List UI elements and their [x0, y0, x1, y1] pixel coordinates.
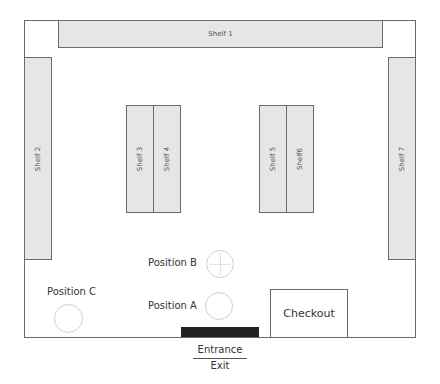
checkout-counter: Checkout — [270, 289, 348, 338]
exit-label: Exit — [190, 360, 250, 371]
checkout-label: Checkout — [283, 307, 334, 320]
position-c-label: Position C — [47, 286, 96, 297]
shelf-2: Shelf 2 — [24, 57, 52, 260]
shelf-6-label: Shelf6 — [296, 148, 304, 170]
crosshair-v — [220, 253, 221, 275]
position-a-label: Position A — [148, 300, 197, 311]
position-b-marker — [206, 250, 234, 278]
shelf-7: Shelf 7 — [388, 57, 416, 260]
shelf-7-label: Shelf 7 — [398, 146, 406, 170]
shelf-5: Shelf 5 — [259, 105, 287, 213]
position-a-marker — [205, 292, 233, 320]
shelf-5-label: Shelf 5 — [269, 147, 277, 171]
entrance-door — [181, 327, 259, 337]
shelf-2-label: Shelf 2 — [34, 146, 42, 170]
shelf-1: Shelf 1 — [58, 20, 383, 48]
shelf-4: Shelf 4 — [153, 105, 181, 213]
shelf-6: Shelf6 — [286, 105, 314, 213]
position-c-marker — [54, 304, 83, 333]
shelf-4-label: Shelf 4 — [163, 147, 171, 171]
entrance-exit-divider — [193, 358, 247, 359]
shelf-3-label: Shelf 3 — [136, 147, 144, 171]
shelf-3: Shelf 3 — [126, 105, 154, 213]
shelf-1-label: Shelf 1 — [208, 30, 232, 38]
position-b-label: Position B — [148, 257, 197, 268]
entrance-label: Entrance — [190, 344, 250, 355]
